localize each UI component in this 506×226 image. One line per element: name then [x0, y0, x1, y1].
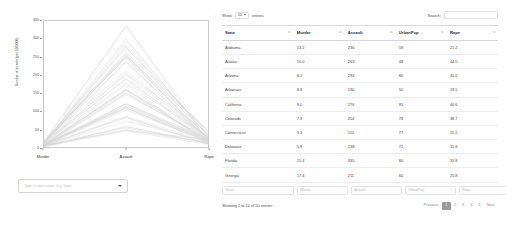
table-cell: 294 — [345, 69, 396, 83]
table-row[interactable]: Arkansas8.81905019.5 — [222, 83, 498, 97]
search-input[interactable] — [444, 11, 498, 19]
table-cell: 80 — [396, 154, 447, 168]
table-cell: 78 — [396, 111, 447, 125]
page-length-control[interactable]: Show 10 entries — [222, 12, 264, 19]
table-cell: 31.0 — [447, 69, 498, 83]
table-head: State⇅Murder⇅Assault⇅UrbanPop⇅Rape⇅ — [222, 26, 498, 41]
column-filter-urbanpop[interactable]: UrbanPop — [405, 186, 456, 195]
page-length-select[interactable]: 10 — [235, 12, 249, 19]
x-axis-tick-mark — [43, 148, 44, 150]
column-header-assault[interactable]: Assault⇅ — [345, 26, 396, 41]
table-row[interactable]: Connecticut3.31107711.1 — [222, 125, 498, 139]
column-header-state[interactable]: State⇅ — [222, 26, 294, 41]
datatable-footer: Showing 1 to 10 of 50 entries Previous12… — [222, 202, 498, 211]
table-cell: 21.2 — [447, 40, 498, 54]
x-axis-tick-label: Murder — [37, 154, 49, 159]
column-header-rape[interactable]: Rape⇅ — [447, 26, 498, 41]
y-axis-tick-label: 150 — [33, 91, 39, 95]
plot-panel: Number of arrests (per 100,000) 35030025… — [0, 0, 216, 226]
table-row[interactable]: Alaska10.02634844.5 — [222, 54, 498, 68]
table-cell: 72 — [396, 140, 447, 154]
sort-arrows-icon: ⇅ — [390, 31, 393, 34]
table-cell: 13.2 — [294, 40, 345, 54]
column-filter-placeholder: Murder — [300, 188, 311, 192]
table-cell: 40.6 — [447, 97, 498, 111]
table-row[interactable]: California9.02769140.6 — [222, 97, 498, 111]
table-cell: 91 — [396, 97, 447, 111]
sort-arrows-icon: ⇅ — [493, 31, 496, 34]
table-row[interactable]: Alabama13.22365821.2 — [222, 40, 498, 54]
table-cell: Alabama — [222, 40, 294, 54]
column-filter-row: StateMurderAssaultUrbanPopRape — [222, 186, 498, 195]
state-name-input[interactable]: Type a state name, e.g. Iowa — [18, 179, 128, 193]
table-cell: 276 — [345, 97, 396, 111]
column-filter-placeholder: State — [226, 188, 234, 192]
column-filter-placeholder: Rape — [462, 188, 470, 192]
y-axis-label: Number of arrests (per 100,000) — [15, 22, 19, 102]
search-label: Search: — [428, 13, 441, 18]
table-cell: 335 — [345, 154, 396, 168]
table-cell: Arizona — [222, 69, 294, 83]
pagination-page-2[interactable]: 2 — [451, 202, 459, 210]
table-row[interactable]: Delaware5.92387215.8 — [222, 140, 498, 154]
table-cell: Arkansas — [222, 83, 294, 97]
column-filter-placeholder: Assault — [354, 188, 365, 192]
table-cell: Georgia — [222, 168, 294, 182]
table-row[interactable]: Florida15.43358031.9 — [222, 154, 498, 168]
parallel-coordinates-svg — [44, 21, 208, 147]
shiny-app-root: Number of arrests (per 100,000) 35030025… — [0, 0, 506, 226]
table-cell: 58 — [396, 40, 447, 54]
sort-arrows-icon: ⇅ — [288, 31, 291, 34]
column-filter-murder[interactable]: Murder — [297, 186, 348, 195]
table-cell: 236 — [345, 40, 396, 54]
column-header-urbanpop[interactable]: UrbanPop⇅ — [396, 26, 447, 41]
table-cell: 211 — [345, 168, 396, 182]
pagination-page-5[interactable]: 5 — [475, 202, 483, 210]
pagination-page-3[interactable]: 3 — [459, 202, 467, 210]
pagination-next[interactable]: Next — [483, 202, 498, 210]
table-cell: California — [222, 97, 294, 111]
column-filter-assault[interactable]: Assault — [351, 186, 402, 195]
table-cell: Delaware — [222, 140, 294, 154]
pagination-page-1[interactable]: 1 — [442, 202, 451, 211]
table-cell: 44.5 — [447, 54, 498, 68]
sort-arrows-icon: ⇅ — [339, 31, 342, 34]
table-cell: 15.8 — [447, 140, 498, 154]
table-cell: 77 — [396, 125, 447, 139]
datatable-panel: Show 10 entries Search: State⇅Murder⇅Ass… — [216, 0, 506, 226]
table-cell: Florida — [222, 154, 294, 168]
datatable-toolbar: Show 10 entries Search: — [222, 9, 498, 21]
y-axis-tick-label: 300 — [33, 36, 39, 40]
table-cell: 25.8 — [447, 168, 498, 182]
table-row[interactable]: Colorado7.92047838.7 — [222, 111, 498, 125]
table-cell: 10.0 — [294, 54, 345, 68]
table-row[interactable]: Georgia17.42116025.8 — [222, 168, 498, 182]
table-cell: Colorado — [222, 111, 294, 125]
table-cell: 7.9 — [294, 111, 345, 125]
search-control[interactable]: Search: — [428, 11, 498, 19]
table-cell: 3.3 — [294, 125, 345, 139]
table-row[interactable]: Arizona8.12948031.0 — [222, 69, 498, 83]
table-cell: 9.0 — [294, 97, 345, 111]
table-cell: Alaska — [222, 54, 294, 68]
table-cell: 263 — [345, 54, 396, 68]
y-axis-tick-label: 200 — [33, 73, 39, 77]
table-cell: 80 — [396, 69, 447, 83]
page-length-value: 10 — [238, 13, 242, 17]
column-filter-state[interactable]: State — [222, 186, 294, 195]
table-header-row: State⇅Murder⇅Assault⇅UrbanPop⇅Rape⇅ — [222, 26, 498, 41]
column-header-label: State — [225, 30, 235, 35]
pagination-previous[interactable]: Previous — [420, 202, 442, 210]
column-filter-rape[interactable]: Rape — [459, 186, 506, 195]
y-axis-tick-label: 50 — [35, 128, 39, 132]
column-header-label: Murder — [297, 30, 311, 35]
table-cell: 204 — [345, 111, 396, 125]
table-cell: 38.7 — [447, 111, 498, 125]
column-header-murder[interactable]: Murder⇅ — [294, 26, 345, 41]
table-cell: Connecticut — [222, 125, 294, 139]
table-cell: 110 — [345, 125, 396, 139]
pagination-page-4[interactable]: 4 — [467, 202, 475, 210]
table-cell: 17.4 — [294, 168, 345, 182]
page-length-label-after: entries — [252, 13, 264, 18]
table-cell: 11.1 — [447, 125, 498, 139]
